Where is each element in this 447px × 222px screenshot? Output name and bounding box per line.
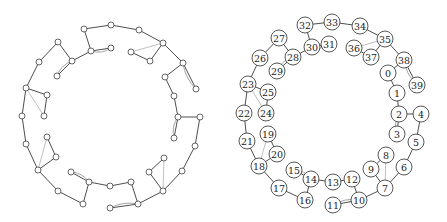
graph-edge [149,172,163,191]
labeled-graph-node: 6 [396,159,412,175]
labeled-graph-node: 2 [391,106,407,122]
labeled-graph-node: 4 [413,106,429,122]
labeled-graph-node: 1 [389,85,405,101]
graph-edge [38,137,47,170]
graph-node [128,179,134,185]
labeled-graph-node: 22 [236,105,252,121]
labeled-graph-node: 34 [352,18,368,34]
node-label: 29 [271,66,283,77]
node-label: 11 [327,200,339,211]
labeled-graph-node: 35 [377,31,393,47]
graph-edge [111,25,139,30]
graph-node [23,85,29,91]
graph-node [55,39,61,45]
labeled-graph-node: 30 [304,39,320,55]
labeled-graph-node: 36 [346,40,362,56]
graph-node [160,40,166,46]
labeled-graph-node: 25 [260,84,276,100]
graph-node [162,74,168,80]
node-label: 15 [288,165,300,176]
node-label: 13 [327,177,339,188]
node-label: 27 [273,33,285,44]
node-label: 28 [287,52,299,63]
labeled-graph-node: 9 [363,161,379,177]
graph-node [135,201,141,207]
graph-node [160,188,166,194]
right-graph-nodes: 0123456789101112131415161718192021222324… [236,14,429,213]
graph-node [69,58,75,64]
graph-edge [38,170,58,191]
left-graph [19,22,203,211]
node-label: 35 [379,34,391,45]
graph-node [19,113,25,119]
graph-edge [84,29,91,51]
labeled-graph-node: 14 [303,171,319,187]
node-label: 30 [306,42,318,53]
node-label: 1 [394,88,400,99]
labeled-graph-node: 26 [252,50,268,66]
graph-node [41,113,47,119]
graph-edge [183,63,196,89]
graph-node [68,169,74,175]
labeled-graph-node: 11 [325,197,341,213]
graph-edge [58,191,83,204]
graph-edge [139,30,163,43]
node-label: 23 [242,79,254,90]
graph-node [147,58,153,64]
node-label: 7 [382,183,388,194]
labeled-graph-node: 38 [396,52,412,68]
labeled-graph-node: 27 [271,30,287,46]
node-label: 14 [305,174,317,185]
graph-node [108,22,114,28]
labeled-graph-node: 0 [380,65,396,81]
labeled-graph-node: 3 [389,126,405,142]
node-label: 34 [354,21,366,32]
graph-edge [22,88,26,116]
graph-node [44,92,50,98]
graph-edge [163,43,183,63]
labeled-graph-node: 12 [344,171,360,187]
graph-node [128,49,134,55]
graph-node [108,45,114,51]
node-label: 8 [383,150,389,161]
node-label: 10 [353,195,365,206]
labeled-graph-node: 5 [408,134,424,150]
node-label: 5 [413,137,419,148]
node-label: 4 [418,109,424,120]
labeled-graph-node: 17 [271,180,287,196]
graph-node [107,205,113,211]
labeled-graph-node: 28 [285,49,301,65]
graph-node [171,135,177,141]
node-label: 0 [385,68,391,79]
node-label: 19 [262,129,274,140]
node-label: 3 [394,129,400,140]
labeled-graph-node: 31 [321,36,337,52]
graph-node [36,59,42,65]
labeled-graph-node: 15 [286,162,302,178]
graph-node [107,183,113,189]
node-label: 32 [299,20,311,31]
graph-node [180,60,186,66]
graph-node [146,169,152,175]
graph-node [197,114,203,120]
node-label: 26 [254,53,266,64]
node-label: 22 [238,108,250,119]
graph-edge [182,146,195,171]
graph-edge [195,117,200,146]
graph-edge [22,116,26,144]
node-label: 31 [323,39,335,50]
graph-node [179,168,185,174]
graph-node [175,114,181,120]
graph-edge [39,42,58,62]
node-label: 38 [398,55,410,66]
graph-edge [84,25,111,29]
labeled-graph-node: 23 [240,76,256,92]
labeled-graph-node: 8 [378,147,394,163]
left-graph-edges [22,25,200,208]
graph-node [81,26,87,32]
node-label: 12 [346,174,358,185]
graph-node [86,179,92,185]
labeled-graph-node: 16 [297,192,313,208]
left-graph-nodes [19,22,203,211]
labeled-graph-node: 32 [297,17,313,33]
